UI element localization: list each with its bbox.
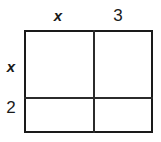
cell-top-right[interactable] <box>95 32 151 97</box>
cell-top-left[interactable] <box>26 32 93 97</box>
column-label-3: 3 <box>101 7 135 24</box>
column-label-x: x <box>41 8 75 23</box>
cell-bottom-right[interactable] <box>95 99 151 131</box>
cell-bottom-left[interactable] <box>26 99 93 131</box>
area-model-diagram: x 3 x 2 <box>0 0 161 142</box>
row-label-x: x <box>1 59 21 74</box>
row-label-2: 2 <box>1 99 21 116</box>
